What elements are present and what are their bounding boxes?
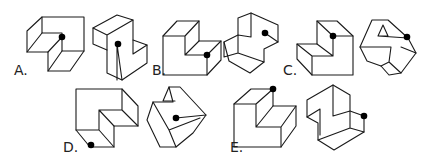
puzzle-figure: A. B. C. D. E. bbox=[0, 0, 429, 163]
figure-d-left bbox=[76, 89, 138, 148]
figures-canvas bbox=[0, 0, 429, 163]
figure-b-right bbox=[224, 13, 278, 73]
figure-c-right bbox=[360, 20, 416, 75]
figure-a-left bbox=[27, 17, 84, 71]
figure-d-right bbox=[147, 87, 206, 147]
figure-b-left bbox=[163, 21, 221, 75]
figure-a-right bbox=[93, 15, 147, 80]
figure-e-left bbox=[234, 86, 296, 147]
figure-c-left bbox=[297, 21, 353, 75]
figure-e-right bbox=[307, 85, 367, 150]
